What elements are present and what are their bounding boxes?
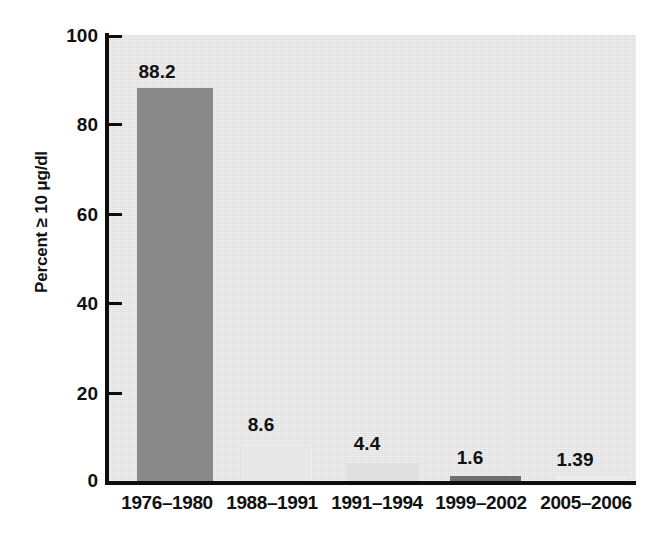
bar-value-label-1988-1991: 8.6 [211, 414, 311, 436]
y-tick-label-100: 100 [36, 25, 98, 47]
bar-value-label-1991-1994: 4.4 [317, 433, 417, 455]
y-tick-mark-80 [109, 123, 122, 126]
bar-value-label-1976-1980: 88.2 [107, 61, 207, 83]
bar-chart: Percent ≥ 10 μg/dl 100 80 60 40 20 0 88.… [0, 0, 668, 541]
y-tick-mark-100 [109, 35, 122, 38]
y-tick-label-0: 0 [36, 470, 98, 492]
bar-value-label-2005-2006: 1.39 [525, 449, 625, 471]
x-axis-line [105, 481, 636, 485]
y-axis-line [105, 33, 109, 485]
y-tick-label-40: 40 [36, 293, 98, 315]
y-tick-label-60: 60 [36, 204, 98, 226]
plot-area [109, 35, 636, 483]
y-tick-mark-60 [109, 213, 122, 216]
y-tick-label-20: 20 [36, 383, 98, 405]
bar-1976-1980 [137, 88, 213, 483]
bar-value-label-1999-2002: 1.6 [420, 447, 520, 469]
y-tick-label-80: 80 [36, 114, 98, 136]
x-tick-label-2005-2006: 2005–2006 [506, 492, 666, 514]
y-tick-mark-40 [109, 302, 122, 305]
y-tick-mark-20 [109, 392, 122, 395]
bar-1988-1991 [241, 445, 311, 484]
